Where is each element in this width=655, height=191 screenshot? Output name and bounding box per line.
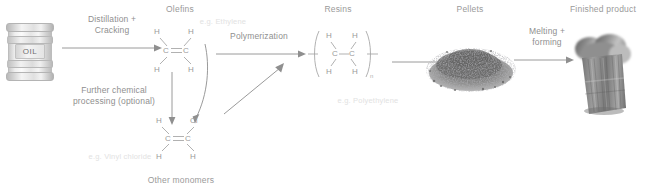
atom-carbon-left: C <box>165 134 171 143</box>
oil-text: OIL <box>23 47 38 56</box>
stage-title-other-monomers: Other monomers <box>136 175 226 185</box>
step-label-further-processing: Further chemical processing (optional) <box>52 85 176 107</box>
pellets-granules <box>425 40 517 96</box>
stage-example-polyethylene: e.g. Polyethylene <box>315 96 421 105</box>
pellets-pile-image <box>425 40 517 96</box>
barrel-rib <box>7 60 53 68</box>
finished-product-image <box>572 32 634 116</box>
atom-carbon-right: C <box>185 134 191 143</box>
oil-barrel-icon: OIL <box>8 24 52 78</box>
molecule-polyethylene: H H H H C C n <box>308 27 382 85</box>
stage-example-ethylene: e.g. Ethylene <box>178 17 268 26</box>
arrow-olefins-to-resins <box>216 48 308 60</box>
stage-title-finished-product: Finished product <box>558 4 648 14</box>
atom-carbon-right: C <box>349 49 355 58</box>
barrel-rib <box>7 36 53 44</box>
polymer-subscript-n: n <box>370 73 373 79</box>
step-label-polymerization: Polymerization <box>212 31 306 42</box>
barrel-oil-label: OIL <box>15 44 45 59</box>
atom-carbon-left: C <box>332 49 338 58</box>
barrel-top-cap <box>6 23 54 32</box>
stage-title-resins: Resins <box>307 4 369 14</box>
plastic-product-photo <box>572 32 634 116</box>
stage-title-pellets: Pellets <box>440 4 500 14</box>
arrow-pellets-to-product <box>514 54 576 66</box>
stage-example-vinyl-chloride: e.g. Vinyl chloride <box>70 152 170 161</box>
process-flow-diagram: OIL Distillation + Cracking Olefins e.g.… <box>0 0 655 191</box>
barrel-bottom-cap <box>6 72 54 81</box>
stage-title-olefins: Olefins <box>150 4 210 14</box>
arrow-monomers-to-resins <box>222 60 290 116</box>
